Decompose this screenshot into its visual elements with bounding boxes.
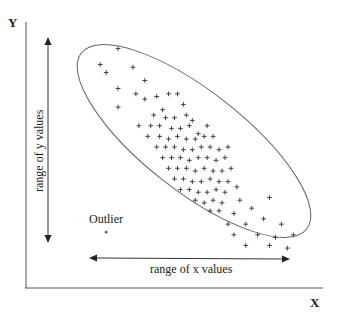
data-point (208, 145, 213, 150)
data-point (131, 65, 136, 70)
data-point (208, 177, 213, 182)
data-point (160, 155, 165, 160)
data-point (226, 179, 231, 184)
data-point (148, 123, 153, 128)
data-point (133, 91, 138, 96)
arrowhead-up-icon (45, 37, 52, 45)
data-point (267, 243, 272, 248)
arrowhead-right-icon (282, 256, 290, 263)
data-point (163, 115, 168, 120)
data-point (223, 190, 228, 195)
data-point (190, 179, 195, 184)
data-point (211, 134, 216, 139)
outlier-label: Outlier (89, 212, 123, 226)
data-point (279, 222, 284, 227)
data-point (172, 177, 177, 182)
y-axis-label: Y (8, 15, 18, 30)
data-point (181, 102, 186, 107)
data-point (178, 155, 183, 160)
data-point (181, 177, 186, 182)
data-point (116, 105, 121, 110)
arrowhead-left-icon (89, 255, 97, 262)
data-point (223, 155, 228, 160)
data-point (202, 166, 207, 171)
data-point (243, 222, 248, 227)
data-point (205, 190, 210, 195)
data-point (205, 155, 210, 160)
data-point (142, 78, 147, 83)
data-point (190, 118, 195, 123)
data-point (184, 166, 189, 171)
data-point (196, 190, 201, 195)
data-point (175, 134, 180, 139)
data-point (157, 134, 162, 139)
x-axis-label: X (310, 295, 320, 310)
data-point (232, 232, 237, 237)
data-point (190, 147, 195, 152)
data-point (267, 195, 272, 200)
data-point (199, 179, 204, 184)
data-point (116, 46, 121, 51)
data-point (243, 243, 248, 248)
scatter-figure: Y X range of y values range of x values … (0, 0, 340, 331)
data-point (184, 113, 189, 118)
data-point (166, 91, 171, 96)
x-range-label: range of x values (150, 262, 233, 276)
y-range-label: range of y values (32, 109, 46, 192)
data-point (166, 137, 171, 142)
data-point (196, 155, 201, 160)
data-point (229, 166, 234, 171)
data-point (169, 126, 174, 131)
data-point (205, 123, 210, 128)
data-point (172, 145, 177, 150)
data-point (104, 70, 109, 75)
data-point (184, 137, 189, 142)
data-point (172, 115, 177, 120)
data-point (116, 86, 121, 91)
data-point (169, 155, 174, 160)
points-layer (98, 46, 296, 250)
data-point (193, 137, 198, 142)
data-point (142, 97, 147, 102)
data-point (175, 166, 180, 171)
data-point (178, 187, 183, 192)
data-point (154, 145, 159, 150)
outlier-layer (105, 231, 108, 234)
data-point (217, 147, 222, 152)
data-point (181, 147, 186, 152)
data-point (151, 113, 156, 118)
data-point (157, 123, 162, 128)
data-point (217, 179, 222, 184)
outlier-point (105, 231, 108, 234)
data-point (187, 158, 192, 163)
data-point (232, 211, 237, 216)
data-point (214, 158, 219, 163)
cluster-ellipse (51, 14, 338, 269)
data-point (154, 94, 159, 99)
data-point (193, 169, 198, 174)
data-point (202, 200, 207, 205)
data-point (98, 62, 103, 67)
data-point (217, 208, 222, 213)
data-point (136, 123, 141, 128)
data-point (199, 145, 204, 150)
data-point (214, 187, 219, 192)
data-point (237, 198, 242, 203)
data-point (285, 246, 290, 251)
data-point (226, 145, 231, 150)
data-point (166, 166, 171, 171)
data-point (211, 169, 216, 174)
data-point (234, 185, 239, 190)
data-point (220, 200, 225, 205)
data-point (187, 187, 192, 192)
data-point (249, 206, 254, 211)
data-point (220, 169, 225, 174)
data-point (187, 123, 192, 128)
data-point (196, 131, 201, 136)
data-point (202, 134, 207, 139)
data-point (175, 91, 180, 96)
data-point (163, 145, 168, 150)
data-point (145, 134, 150, 139)
data-point (211, 198, 216, 203)
data-point (261, 216, 266, 221)
